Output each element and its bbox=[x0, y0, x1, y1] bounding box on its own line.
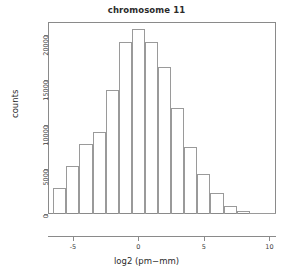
histogram-bar bbox=[210, 193, 223, 214]
x-axis-tick-label: 0 bbox=[136, 243, 140, 251]
histogram-bar bbox=[224, 206, 237, 214]
histogram-bar bbox=[119, 42, 132, 214]
y-axis-tick-label: 20000 bbox=[42, 35, 50, 56]
histogram-bar bbox=[132, 29, 145, 214]
y-axis-title: counts bbox=[10, 90, 20, 118]
chart-title: chromosome 11 bbox=[0, 5, 293, 15]
chart-container: chromosome 11 counts -50510 log2 (pm−mm)… bbox=[0, 0, 293, 278]
histogram-bar bbox=[171, 108, 184, 214]
y-axis-tick-label: 0 bbox=[42, 214, 50, 218]
histogram-bar bbox=[250, 213, 263, 214]
x-axis-tick bbox=[138, 237, 139, 241]
histogram-bars bbox=[48, 22, 276, 214]
histogram-bar bbox=[106, 90, 119, 214]
x-axis-tick-label: 5 bbox=[202, 243, 206, 251]
x-axis-tick bbox=[204, 237, 205, 241]
histogram-bar bbox=[184, 147, 197, 214]
x-axis-tick bbox=[269, 237, 270, 241]
x-axis-tick-label: -5 bbox=[70, 243, 76, 251]
histogram-bar bbox=[53, 188, 66, 214]
histogram-bar bbox=[263, 213, 276, 214]
histogram-bar bbox=[93, 132, 106, 214]
x-axis-title: log2 (pm−mm) bbox=[0, 256, 293, 266]
y-axis-tick-label: 15000 bbox=[42, 80, 50, 101]
histogram-bar bbox=[158, 67, 171, 214]
histogram-bar bbox=[66, 166, 79, 214]
histogram-bar bbox=[145, 42, 158, 214]
histogram-bar bbox=[197, 174, 210, 214]
x-axis-tick-label: 10 bbox=[265, 243, 273, 251]
y-axis-tick-label: 10000 bbox=[42, 125, 50, 146]
x-axis: -50510 bbox=[48, 236, 276, 241]
y-axis-tick-label: 5000 bbox=[42, 169, 50, 186]
histogram-bar bbox=[237, 211, 250, 214]
x-axis-tick bbox=[73, 237, 74, 241]
histogram-bar bbox=[79, 144, 92, 214]
